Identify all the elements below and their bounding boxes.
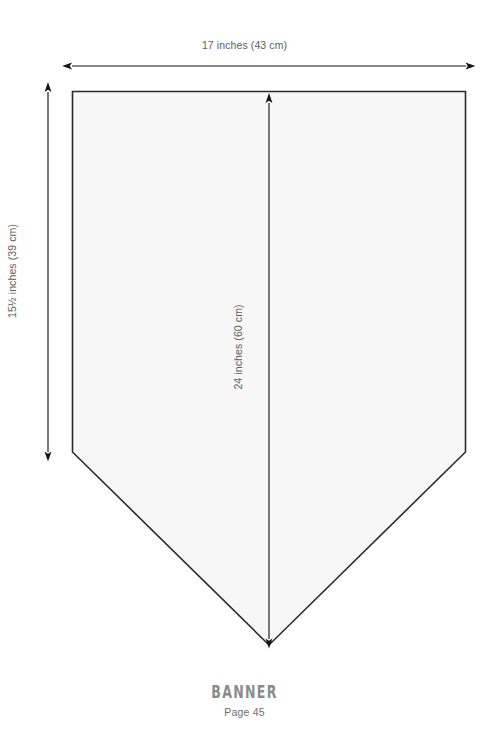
page-number: Page 45 (0, 707, 489, 719)
banner-diagram: 17 inches (43 cm) 15½ inches (39 cm) 24 … (0, 0, 489, 755)
height-dimension-label: 15½ inches (39 cm) (0, 0, 24, 755)
figure-title: BANNER (44, 683, 445, 702)
diagonal-dimension-label: 24 inches (60 cm) (226, 0, 250, 755)
height-dimension-label-text: 15½ inches (39 cm) (7, 224, 18, 318)
diagonal-dimension-label-text: 24 inches (60 cm) (233, 304, 244, 389)
figure-caption: BANNER Page 45 (0, 683, 489, 718)
